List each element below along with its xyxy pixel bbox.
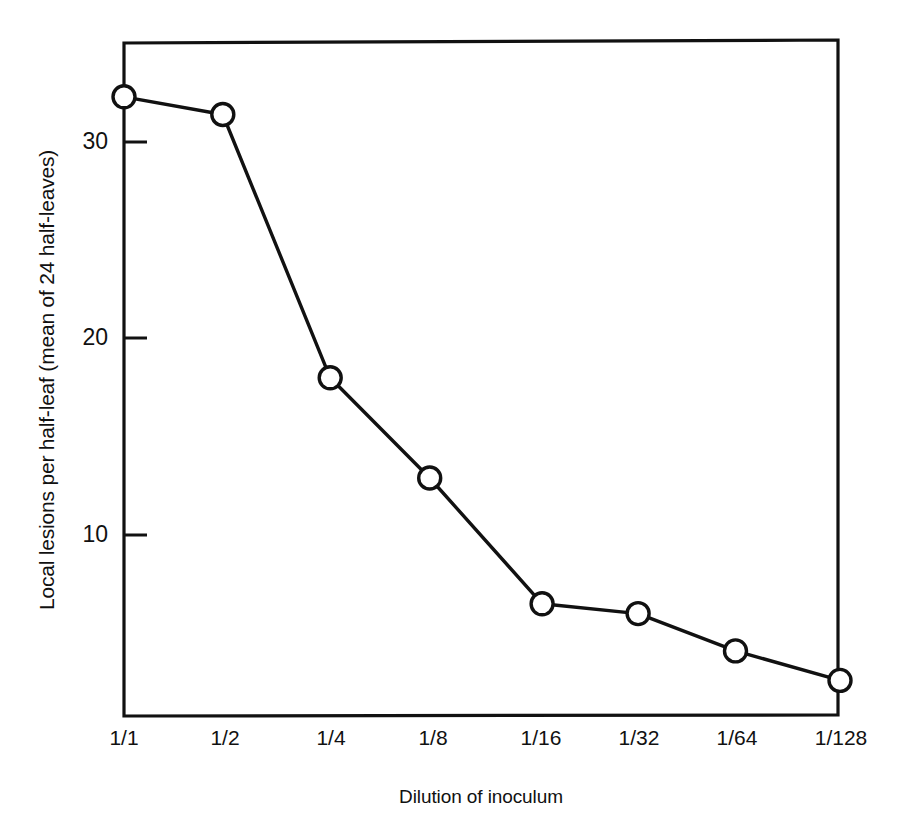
- data-point-marker: [627, 603, 649, 625]
- x-tick-label-1-8: 1/8: [418, 726, 447, 750]
- chart-figure: Local lesions per half-leaf (mean of 24 …: [0, 0, 899, 840]
- x-tick-label-1-4: 1/4: [316, 726, 345, 750]
- x-tick-label-1-64: 1/64: [717, 726, 758, 750]
- plot-area: [0, 0, 899, 840]
- data-point-marker: [725, 640, 747, 662]
- x-tick-label-1-32: 1/32: [619, 726, 660, 750]
- x-tick-label-1-128: 1/128: [815, 726, 868, 750]
- data-point-marker: [531, 593, 553, 615]
- data-point-marker: [829, 669, 851, 691]
- data-point-marker: [113, 86, 135, 108]
- data-point-marker: [319, 367, 341, 389]
- data-series-line: [124, 97, 840, 681]
- x-tick-label-1-1: 1/1: [109, 726, 138, 750]
- x-axis-title: Dilution of inoculum: [124, 786, 838, 808]
- data-point-markers: [113, 86, 851, 692]
- x-axis-tick-labels: 1/1 1/2 1/4 1/8 1/16 1/32 1/64 1/128: [0, 726, 899, 760]
- y-axis-ticks: [124, 142, 147, 535]
- data-point-marker: [419, 467, 441, 489]
- data-point-marker: [212, 104, 234, 126]
- x-tick-label-1-2: 1/2: [210, 726, 239, 750]
- plot-frame: [124, 40, 838, 716]
- x-tick-label-1-16: 1/16: [521, 726, 562, 750]
